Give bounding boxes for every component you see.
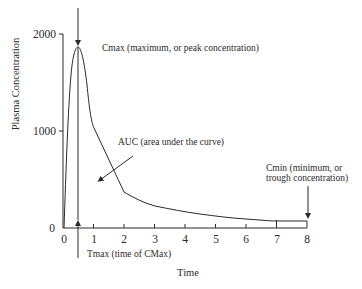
x-tick-label: 6 xyxy=(243,233,249,245)
y-axis: 2000 1000 0 xyxy=(33,28,63,234)
x-axis: 0 1 2 3 4 5 6 7 8 xyxy=(61,220,310,245)
x-tick-label: 5 xyxy=(213,233,219,245)
y-axis-label: Plasma Concentration xyxy=(10,37,21,130)
x-tick-label: 4 xyxy=(182,233,188,245)
tmax-label: Tmax (time of CMax) xyxy=(87,249,171,260)
x-axis-label: Time xyxy=(177,267,199,278)
x-tick-label: 1 xyxy=(91,233,97,245)
auc-label: AUC (area under the curve) xyxy=(118,137,224,148)
y-tick-label: 2000 xyxy=(33,28,56,40)
cmax-label: Cmax (maximum, or peak concentration) xyxy=(102,43,259,54)
x-tick-label: 3 xyxy=(152,233,158,245)
x-tick-label: 2 xyxy=(121,233,127,245)
y-tick-label: 0 xyxy=(49,222,55,234)
y-tick-label: 1000 xyxy=(33,125,56,137)
x-tick-label: 0 xyxy=(61,233,67,245)
x-tick-label: 7 xyxy=(274,233,280,245)
cmin-label-line2: trough concentration) xyxy=(266,173,348,184)
pharmacokinetic-chart: 2000 1000 0 0 1 2 3 4 5 6 7 8 Plasma Con… xyxy=(0,0,362,289)
x-tick-label: 8 xyxy=(304,233,310,245)
